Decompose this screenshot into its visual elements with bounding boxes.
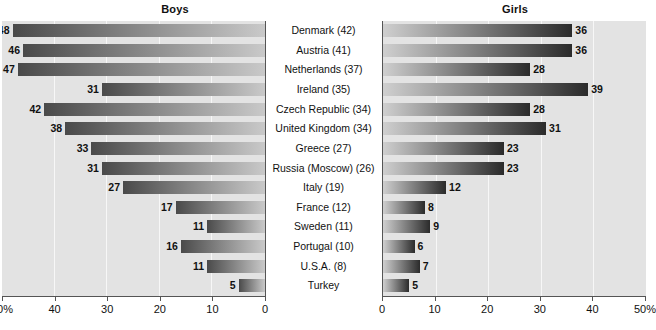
bar-value-label: 28 (533, 62, 545, 76)
bar-value-label: 38 (50, 121, 62, 135)
panel-title-girls: Girls (440, 3, 590, 15)
axis-tick (2, 296, 3, 301)
bar-row: 17 (2, 198, 265, 218)
bar-girls (383, 44, 572, 57)
bar-girls (383, 260, 420, 273)
category-label: Greece (27) (266, 139, 381, 159)
bar-value-label: 16 (166, 239, 178, 253)
bar-row: 7 (383, 257, 646, 277)
category-label: Denmark (42) (266, 21, 381, 41)
bar-value-label: 42 (29, 102, 41, 116)
x-axis-boys: 50%403020100 (2, 296, 265, 330)
bar-row: 33 (2, 139, 265, 159)
bar-girls (383, 240, 415, 253)
axis-tick-label: 0 (379, 303, 385, 315)
bar-boys (207, 260, 265, 273)
axis-tick (487, 296, 488, 301)
axis-tick-label: 30 (534, 303, 546, 315)
axis-tick (55, 296, 56, 301)
category-label-column: Denmark (42)Austria (41)Netherlands (37)… (266, 21, 381, 296)
axis-tick (645, 296, 646, 301)
axis-tick-label: 10 (206, 303, 218, 315)
bar-boys (176, 201, 265, 214)
bar-girls (383, 181, 446, 194)
category-label: Portugal (10) (266, 237, 381, 257)
bar-value-label: 48 (2, 23, 10, 37)
bar-girls (383, 103, 530, 116)
bar-girls (383, 122, 546, 135)
panel-title-boys: Boys (100, 3, 250, 15)
bar-value-label: 28 (533, 102, 545, 116)
bar-girls (383, 279, 409, 292)
category-label: Austria (41) (266, 41, 381, 61)
bar-value-label: 23 (507, 161, 519, 175)
bar-boys (102, 83, 265, 96)
bar-value-label: 31 (87, 161, 99, 175)
bar-value-label: 46 (8, 43, 20, 57)
bar-value-label: 11 (193, 259, 204, 273)
bar-value-label: 33 (77, 141, 89, 155)
axis-tick (592, 296, 593, 301)
bar-row: 36 (383, 21, 646, 41)
bar-value-label: 12 (449, 180, 461, 194)
bar-value-label: 39 (591, 82, 603, 96)
chart-plot-boys: 484647314238333127171116115 (2, 21, 266, 296)
bar-row: 16 (2, 237, 265, 257)
bar-boys (91, 142, 265, 155)
bar-row: 28 (383, 100, 646, 120)
bar-girls (383, 220, 430, 233)
bar-row: 38 (2, 119, 265, 139)
bar-row: 9 (383, 217, 646, 237)
bar-boys (23, 44, 265, 57)
bar-value-label: 31 (87, 82, 99, 96)
bar-value-label: 9 (433, 219, 439, 233)
bar-row: 11 (2, 217, 265, 237)
bar-value-label: 5 (412, 278, 418, 292)
bar-row: 11 (2, 257, 265, 277)
axis-tick (265, 296, 266, 301)
bar-row: 27 (2, 178, 265, 198)
axis-tick-label: 40 (48, 303, 60, 315)
bar-row: 39 (383, 80, 646, 100)
category-label: United Kingdom (34) (266, 119, 381, 139)
bar-value-label: 5 (230, 278, 236, 292)
bar-value-label: 31 (549, 121, 561, 135)
axis-tick-label: 40 (586, 303, 598, 315)
bar-value-label: 7 (423, 259, 429, 273)
category-label: Netherlands (37) (266, 60, 381, 80)
bar-boys (102, 162, 265, 175)
bar-boys (123, 181, 265, 194)
bar-row: 31 (383, 119, 646, 139)
axis-tick-label: 10 (428, 303, 440, 315)
bar-girls (383, 162, 504, 175)
category-label: U.S.A. (8) (266, 257, 381, 277)
bar-value-label: 11 (193, 219, 204, 233)
category-label: Russia (Moscow) (26) (266, 159, 381, 179)
bar-row: 6 (383, 237, 646, 257)
bar-row: 23 (383, 139, 646, 159)
bar-girls (383, 201, 425, 214)
bar-row: 46 (2, 41, 265, 61)
category-label: Czech Republic (34) (266, 100, 381, 120)
bar-boys (65, 122, 265, 135)
bar-value-label: 23 (507, 141, 519, 155)
bar-girls (383, 24, 572, 37)
bar-boys (44, 103, 265, 116)
axis-tick (435, 296, 436, 301)
category-label: France (12) (266, 198, 381, 218)
axis-tick (540, 296, 541, 301)
bar-girls (383, 142, 504, 155)
axis-tick (212, 296, 213, 301)
axis-tick-label: 20 (481, 303, 493, 315)
bar-value-label: 17 (161, 200, 173, 214)
bar-value-label: 36 (575, 43, 587, 57)
bar-boys (181, 240, 265, 253)
axis-tick (107, 296, 108, 301)
category-label: Ireland (35) (266, 80, 381, 100)
bar-row: 42 (2, 100, 265, 120)
x-axis-girls: 01020304050% (382, 296, 645, 330)
bar-row: 8 (383, 198, 646, 218)
bar-value-label: 47 (3, 62, 15, 76)
axis-tick-label: 0 (262, 303, 268, 315)
bar-row: 47 (2, 60, 265, 80)
